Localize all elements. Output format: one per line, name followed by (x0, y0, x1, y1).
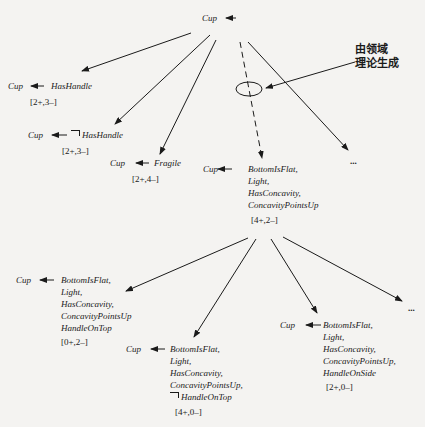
body-line: HandleOnSide (323, 367, 396, 379)
node-body: BottomIsFlat, Light, HasConcavity, Conca… (170, 343, 243, 403)
node-counts: [4+,0–] (175, 406, 202, 418)
annotation-label: 由领域 理论生成 (355, 43, 399, 71)
body-line: HandleOnTop (170, 391, 243, 403)
node-head: Cup (203, 163, 218, 175)
body-line: BottomIsFlat, (170, 343, 243, 355)
body-line: Light, (248, 175, 319, 187)
node-body: BottomIsFlat, Light, HasConcavity, Conca… (248, 163, 319, 211)
annotation-line-1: 由领域 (355, 43, 399, 57)
body-line: HasConcavity, (248, 187, 319, 199)
body-line: ConcavityPointsUp, (170, 379, 243, 391)
node-head: Cup (280, 319, 295, 331)
body-line: Light, (323, 331, 396, 343)
body-line: ConcavityPointsUp (61, 310, 132, 322)
node-counts: [2+,3–] (30, 96, 57, 108)
body-line: HasConcavity, (170, 367, 243, 379)
negation-symbol (170, 392, 179, 398)
node-head: Cup (28, 129, 43, 141)
node-counts: [2+,0–] (326, 381, 353, 393)
node-body: BottomIsFlat, Light, HasConcavity, Conca… (323, 319, 396, 379)
node-counts: [4+,2–] (251, 214, 278, 226)
node-body-text: HasHandle (82, 130, 123, 140)
body-line: Light, (61, 286, 132, 298)
node-head: Cup (16, 274, 31, 286)
annotation-line-2: 理论生成 (355, 57, 399, 71)
negation-symbol (71, 130, 80, 136)
root-node-cup: Cup (202, 12, 217, 24)
more-ellipsis: ... (350, 155, 357, 167)
body-line-text: HandleOnTop (181, 392, 232, 402)
node-body: BottomIsFlat, Light, HasConcavity, Conca… (61, 274, 132, 334)
body-line: ConcavityPointsUp (248, 199, 319, 211)
node-head: Cup (126, 343, 141, 355)
node-body: Fragile (154, 157, 181, 169)
body-line: HasConcavity, (323, 343, 396, 355)
body-line: BottomIsFlat, (61, 274, 132, 286)
node-body: HasHandle (51, 80, 92, 92)
body-line: Light, (170, 355, 243, 367)
more-ellipsis: ... (408, 302, 415, 314)
node-body: HasHandle (71, 129, 123, 141)
node-counts: [2+,3–] (62, 145, 89, 157)
node-head: Cup (110, 157, 125, 169)
node-counts: [2+,4–] (132, 173, 159, 185)
node-head: Cup (8, 80, 23, 92)
node-counts: [0+,2–] (61, 336, 88, 348)
body-line: HasConcavity, (61, 298, 132, 310)
body-line: ConcavityPointsUp, (323, 355, 396, 367)
body-line: BottomIsFlat, (248, 163, 319, 175)
body-line: BottomIsFlat, (323, 319, 396, 331)
body-line: HandleOnTop (61, 322, 132, 334)
